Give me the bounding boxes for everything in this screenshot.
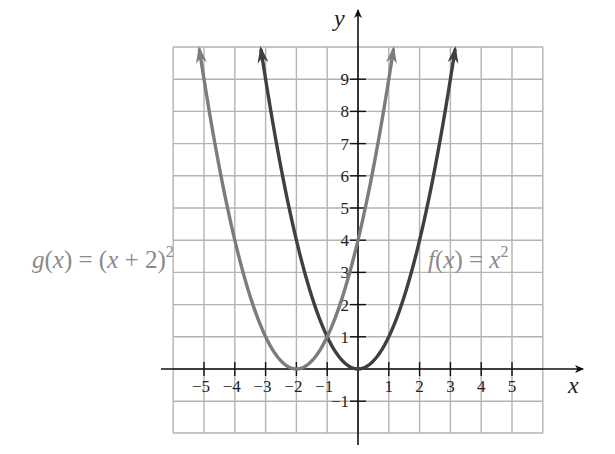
x-tick-label: 1 (385, 377, 394, 396)
x-tick-label: 2 (415, 377, 424, 396)
x-tick-label: −5 (192, 377, 210, 396)
y-tick-label: 6 (341, 167, 350, 186)
y-axis-label: y (332, 5, 345, 31)
y-tick-label: 7 (341, 135, 350, 154)
f-exponent: 2 (500, 243, 508, 260)
y-tick-label: 5 (341, 199, 350, 218)
g-function-label: g(x) = (x + 2)2 (32, 243, 174, 274)
x-tick-label: −4 (223, 377, 242, 396)
x-tick-label: 5 (508, 377, 517, 396)
graph-figure: −5−4−3−2−112345−1123456789 y x g(x) = (x… (0, 0, 615, 454)
x-tick-label: 3 (446, 377, 455, 396)
y-tick-label: −1 (331, 392, 349, 411)
x-tick-label: −3 (254, 377, 272, 396)
g-exponent: 2 (166, 243, 174, 260)
y-tick-label: 1 (341, 328, 350, 347)
y-tick-label: 8 (341, 102, 350, 121)
x-tick-label: 4 (477, 377, 486, 396)
y-tick-label: 9 (341, 70, 350, 89)
y-tick-label: 4 (341, 231, 350, 250)
x-tick-label: −2 (284, 377, 302, 396)
x-axis-label: x (567, 372, 579, 398)
f-function-label: f(x) = x2 (428, 243, 508, 274)
